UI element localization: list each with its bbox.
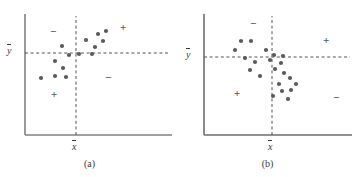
data-point: [280, 89, 284, 93]
data-point: [77, 52, 81, 56]
data-point: [60, 44, 64, 48]
data-point: [281, 54, 285, 58]
data-point: [84, 38, 88, 42]
data-point: [264, 48, 268, 52]
data-point: [93, 45, 97, 49]
data-point: [273, 67, 277, 71]
data-point: [53, 59, 57, 63]
data-point: [61, 66, 65, 70]
data-point: [248, 68, 252, 72]
data-point: [101, 39, 105, 43]
data-point: [277, 82, 281, 86]
data-point: [272, 53, 276, 57]
data-point: [233, 48, 237, 52]
data-point: [90, 52, 94, 56]
quadrant-sign-lower-left-a: +: [51, 89, 57, 100]
xbar-axis-label-b: x: [268, 141, 272, 152]
figure-container: −+−+yx(a) −++−yx(b): [0, 0, 357, 177]
plot-area-a: [0, 0, 179, 177]
ybar-glyph-b: y: [186, 49, 190, 60]
panel-caption-a: (a): [0, 158, 179, 169]
quadrant-sign-upper-left-b: −: [250, 18, 256, 29]
quadrant-sign-lower-right-b: −: [333, 92, 339, 103]
data-point: [289, 88, 293, 92]
data-point: [286, 97, 290, 101]
data-point: [243, 56, 247, 60]
data-point: [268, 58, 272, 62]
data-point: [258, 74, 262, 78]
data-point: [64, 75, 68, 79]
xbar-glyph-a: x: [72, 141, 76, 152]
xbar-glyph-b: x: [268, 141, 272, 152]
scatter-panel-a: −+−+yx(a): [0, 0, 179, 177]
data-point: [288, 76, 292, 80]
data-point: [279, 61, 283, 65]
data-point: [239, 39, 243, 43]
quadrant-sign-lower-left-b: +: [234, 88, 240, 99]
data-point: [104, 29, 108, 33]
ybar-axis-label-b: y: [186, 49, 190, 60]
ybar-axis-label-a: y: [7, 45, 11, 56]
panel-caption-b: (b): [178, 158, 357, 169]
data-point: [67, 53, 71, 57]
quadrant-sign-lower-right-a: −: [105, 72, 111, 83]
data-point: [96, 32, 100, 36]
data-point: [294, 82, 298, 86]
data-point: [249, 39, 253, 43]
data-point: [253, 60, 257, 64]
quadrant-sign-upper-left-a: −: [50, 26, 56, 37]
ybar-glyph-a: y: [7, 45, 11, 56]
data-point: [282, 71, 286, 75]
data-point: [271, 94, 275, 98]
data-point: [53, 74, 57, 78]
quadrant-sign-upper-right-b: +: [323, 35, 329, 46]
quadrant-sign-upper-right-a: +: [120, 22, 126, 33]
data-point: [39, 76, 43, 80]
xbar-axis-label-a: x: [72, 141, 76, 152]
scatter-panel-b: −++−yx(b): [178, 0, 357, 177]
